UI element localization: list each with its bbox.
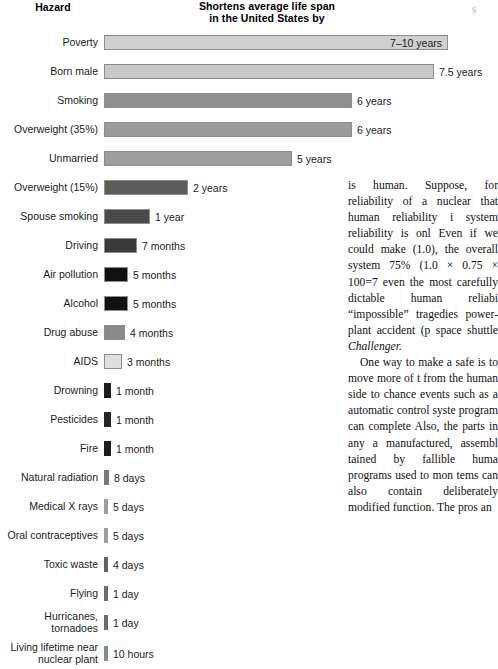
hazard-label: Medical X rays [0, 501, 104, 513]
chart-row: Smoking6 years [0, 86, 485, 115]
hazard-bar [104, 586, 108, 601]
bar-track: 10 hours [104, 637, 485, 669]
bar-value-label: 1 month [116, 414, 154, 426]
bar-value-label: 1 day [113, 588, 139, 600]
chart-row: Hurricanes, tornadoes1 day [0, 608, 485, 637]
bar-value-label: 5 years [297, 153, 331, 165]
hazard-label: Driving [0, 240, 104, 252]
bar-value-label: 7–10 years [390, 37, 442, 49]
chart-header: Hazard Shortens average life span in the… [0, 0, 336, 26]
chart-row: Born male7.5 years [0, 57, 485, 86]
hazard-bar [104, 93, 352, 108]
bar-value-label: 5 days [113, 501, 144, 513]
hazard-label: Toxic waste [0, 559, 104, 571]
column-header-measure: Shortens average life span in the United… [112, 1, 422, 24]
hazard-label: Unmarried [0, 153, 104, 165]
hazard-label: Drug abuse [0, 327, 104, 339]
bar-value-label: 1 day [113, 617, 139, 629]
bar-value-label: 6 years [357, 124, 391, 136]
hazard-bar [104, 412, 111, 427]
bar-value-label: 7 months [142, 240, 185, 252]
hazard-bar [104, 64, 434, 79]
bar-value-label: 1 month [116, 385, 154, 397]
bar-value-label: 2 years [193, 182, 227, 194]
bar-value-label: 8 days [114, 472, 145, 484]
hazard-bar [104, 528, 108, 543]
bar-track: 6 years [104, 115, 485, 144]
bar-track: 1 day [104, 579, 485, 608]
hazard-label: Overweight (15%) [0, 182, 104, 194]
hazard-label: Spouse smoking [0, 211, 104, 223]
hazard-label: Fire [0, 443, 104, 455]
hazard-bar [104, 296, 128, 311]
bar-value-label: 1 month [116, 443, 154, 455]
bar-track: 7.5 years [104, 57, 485, 86]
hazard-bar [104, 441, 111, 456]
bar-value-label: 5 days [113, 530, 144, 542]
hazard-label: AIDS [0, 356, 104, 368]
hazard-label: Hurricanes, tornadoes [0, 611, 104, 634]
body-paragraph-1: is human. Suppose, for reliability of a … [348, 178, 498, 355]
bar-value-label: 5 months [133, 298, 176, 310]
bar-track: 7–10 years [104, 28, 485, 57]
clipped-edge-text: s [472, 2, 496, 152]
hazard-bar [104, 325, 125, 340]
hazard-bar [104, 615, 108, 630]
hazard-label: Flying [0, 588, 104, 600]
bar-value-label: 3 months [127, 356, 170, 368]
chart-row: Living lifetime near nuclear plant10 hou… [0, 637, 485, 669]
hazard-bar-chart: Hazard Shortens average life span in the… [0, 0, 336, 579]
hazard-bar [104, 122, 352, 137]
hazard-bar [104, 383, 111, 398]
hazard-bar [104, 499, 108, 514]
hazard-label: Pesticides [0, 414, 104, 426]
body-paragraph-2: One way to make a safe is to move more o… [348, 355, 498, 516]
hazard-label: Living lifetime near nuclear plant [0, 642, 104, 665]
bar-track: 6 years [104, 86, 485, 115]
hazard-label: Drowning [0, 385, 104, 397]
article-text-column: is human. Suppose, for reliability of a … [348, 178, 498, 579]
bar-track: 5 years [104, 144, 485, 173]
chart-row: Unmarried5 years [0, 144, 485, 173]
hazard-label: Alcohol [0, 298, 104, 310]
hazard-label: Poverty [0, 37, 104, 49]
measure-header-line2: in the United States by [112, 13, 422, 25]
hazard-bar [104, 557, 108, 572]
hazard-bar: 7–10 years [104, 35, 448, 50]
hazard-label: Oral contraceptives [0, 530, 104, 542]
bar-value-label: 4 days [113, 559, 144, 571]
hazard-bar [104, 470, 109, 485]
hazard-bar [104, 209, 150, 224]
chart-row: Overweight (35%)6 years [0, 115, 485, 144]
bar-value-label: 6 years [357, 95, 391, 107]
hazard-bar [104, 354, 122, 369]
paragraph-1-text: is human. Suppose, for reliability of a … [348, 179, 498, 337]
hazard-bar [104, 180, 188, 195]
book-title-challenger: Challenger. [348, 340, 402, 353]
bar-value-label: 1 year [155, 211, 184, 223]
bar-value-label: 4 months [130, 327, 173, 339]
hazard-label: Overweight (35%) [0, 124, 104, 136]
hazard-bar [104, 151, 292, 166]
hazard-label: Smoking [0, 95, 104, 107]
bar-track: 1 day [104, 608, 485, 637]
bar-value-label: 10 hours [113, 648, 154, 660]
hazard-label: Air pollution [0, 269, 104, 281]
column-header-hazard: Hazard [0, 1, 106, 13]
hazard-bar [104, 267, 128, 282]
bar-value-label: 5 months [133, 269, 176, 281]
hazard-bar [104, 238, 137, 253]
chart-row: Flying1 day [0, 579, 485, 608]
measure-header-line1: Shortens average life span [112, 1, 422, 13]
chart-row: Poverty7–10 years [0, 28, 485, 57]
hazard-label: Born male [0, 66, 104, 78]
hazard-bar [104, 646, 108, 661]
hazard-label: Natural radiation [0, 472, 104, 484]
